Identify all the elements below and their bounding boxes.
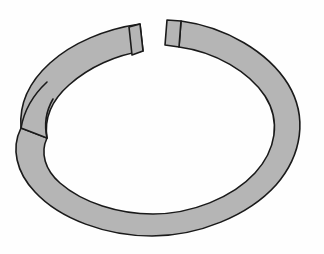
ribbon-upper-sweep [21,24,143,138]
right-end-face [165,20,181,47]
left-end-face [129,24,143,55]
figure-canvas [0,0,324,254]
ribbon-lower-sweep [16,21,300,236]
split-ring-drawing [0,0,324,254]
